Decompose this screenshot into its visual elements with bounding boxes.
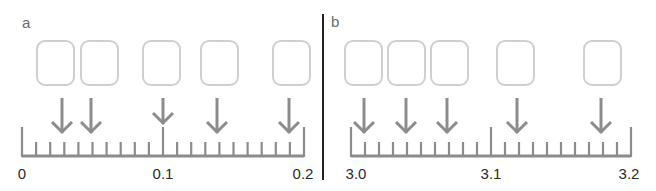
panel-a-box [81, 41, 118, 85]
panel-b-label-min: 3.0 [346, 166, 367, 181]
panel-a-arrow-down-icon [207, 98, 227, 133]
diagram-canvas [0, 0, 656, 191]
panel-a-label-mid: 0.1 [153, 166, 174, 181]
panel-b-box [584, 41, 621, 85]
panel-b-label-max: 3.2 [619, 166, 640, 181]
panel-a-box [201, 41, 238, 85]
panel-b-arrow-down-icon [354, 98, 374, 133]
panel-b-box [497, 41, 534, 85]
panel-b-arrow-down-icon [437, 98, 457, 133]
panel-b-box [345, 41, 382, 85]
panel-a-arrow-down-icon [81, 98, 101, 133]
panel-b-arrow-down-icon [396, 98, 416, 133]
panel-a-box [273, 41, 310, 85]
panel-b-box [388, 41, 425, 85]
panel-b-box [431, 41, 468, 85]
panel-a-label-max: 0.2 [293, 166, 314, 181]
panel-b-arrow-down-icon [591, 98, 611, 133]
panel-a-box [143, 41, 180, 85]
panel-a-box [37, 41, 74, 85]
panel-b-label-mid: 3.1 [481, 166, 502, 181]
panel-b-arrow-down-icon [507, 98, 527, 133]
panel-a-arrow-down-icon [153, 98, 173, 124]
panel-a-arrow-down-icon [279, 98, 299, 133]
panel-a-arrow-down-icon [52, 98, 72, 133]
panel-a-label-min: 0 [18, 166, 26, 181]
